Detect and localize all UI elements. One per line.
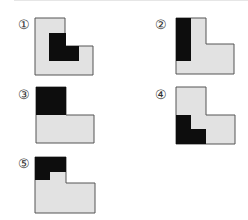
option-5-shape <box>0 0 248 220</box>
